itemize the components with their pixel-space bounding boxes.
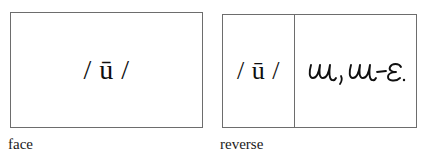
card-face[interactable]: / ū / (10, 12, 203, 128)
phonetic-transcription-reverse: / ū / (237, 58, 280, 84)
reverse-gloss-cell[interactable]: u, u-ε (295, 15, 416, 127)
caption-reverse: reverse (220, 137, 263, 152)
caption-face: face (8, 137, 33, 152)
card-reverse[interactable]: / ū / u, u-ε (222, 14, 417, 128)
figure-root: / ū / face / ū / u, u-ε (0, 0, 427, 159)
reverse-headword-cell[interactable]: / ū / (223, 15, 295, 127)
handwritten-gloss-icon (304, 51, 408, 91)
phonetic-transcription-face: / ū / (11, 56, 202, 84)
